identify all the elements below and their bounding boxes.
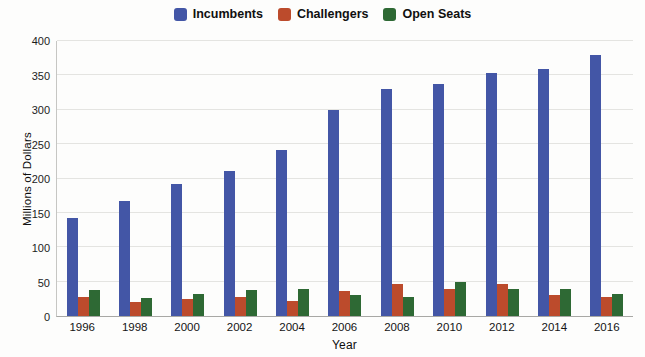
bar-open-seats-2008 <box>403 297 414 316</box>
x-tick-label: 1996 <box>56 321 108 333</box>
x-axis-labels: 1996199820002002200420062008201020122014… <box>56 321 633 333</box>
bar-group-2010 <box>424 41 476 316</box>
bar-group-2006 <box>319 41 371 316</box>
x-tick-label: 2000 <box>161 321 213 333</box>
legend-label-open-seats: Open Seats <box>402 7 471 21</box>
bar-challengers-2010 <box>444 289 455 317</box>
bar-group-2000 <box>162 41 214 316</box>
y-tick-label: 0 <box>0 310 50 324</box>
chart-root: Incumbents Challengers Open Seats Millio… <box>0 0 645 357</box>
x-tick-label: 2016 <box>581 321 633 333</box>
x-tick-label: 2014 <box>528 321 580 333</box>
bar-group-2002 <box>214 41 266 316</box>
open-seats-swatch-icon <box>383 8 396 21</box>
x-tick-label: 2008 <box>371 321 423 333</box>
x-tick-label: 2004 <box>266 321 318 333</box>
bar-challengers-1998 <box>130 302 141 316</box>
x-tick-label: 2010 <box>423 321 475 333</box>
bar-group-2008 <box>371 41 423 316</box>
bar-open-seats-1996 <box>89 290 100 316</box>
bar-challengers-2008 <box>392 284 403 316</box>
bar-incumbents-2016 <box>590 55 601 316</box>
legend-item-challengers: Challengers <box>278 7 369 21</box>
bar-challengers-2000 <box>182 299 193 316</box>
challengers-swatch-icon <box>278 8 291 21</box>
y-tick-label: 250 <box>0 138 50 152</box>
bar-challengers-2012 <box>497 284 508 316</box>
bar-open-seats-1998 <box>141 298 152 316</box>
legend-item-incumbents: Incumbents <box>174 7 263 21</box>
chart-legend: Incumbents Challengers Open Seats <box>0 7 645 21</box>
legend-label-incumbents: Incumbents <box>193 7 263 21</box>
bar-open-seats-2012 <box>508 289 519 316</box>
bar-incumbents-2000 <box>171 184 182 316</box>
bar-challengers-1996 <box>78 297 89 316</box>
bar-incumbents-2006 <box>328 110 339 316</box>
y-tick-label: 150 <box>0 207 50 221</box>
bar-incumbents-2014 <box>538 69 549 317</box>
bar-incumbents-2010 <box>433 84 444 316</box>
bar-group-2004 <box>266 41 318 316</box>
bar-incumbents-1996 <box>67 218 78 316</box>
plot-area <box>56 41 633 317</box>
y-tick-label: 50 <box>0 276 50 290</box>
y-tick-label: 400 <box>0 34 50 48</box>
x-tick-label: 2006 <box>318 321 370 333</box>
y-tick-label: 200 <box>0 172 50 186</box>
bar-incumbents-2008 <box>381 89 392 316</box>
bar-open-seats-2016 <box>612 294 623 316</box>
bar-open-seats-2004 <box>298 289 309 317</box>
bar-incumbents-2002 <box>224 171 235 316</box>
y-tick-label: 350 <box>0 69 50 83</box>
y-tick-label: 300 <box>0 103 50 117</box>
bar-open-seats-2006 <box>350 295 361 316</box>
bar-group-1996 <box>57 41 109 316</box>
bar-open-seats-2002 <box>246 290 257 316</box>
bar-challengers-2014 <box>549 295 560 316</box>
legend-item-open-seats: Open Seats <box>383 7 471 21</box>
bar-group-1998 <box>109 41 161 316</box>
bar-group-2016 <box>581 41 633 316</box>
x-axis-title: Year <box>56 338 633 352</box>
bar-open-seats-2010 <box>455 282 466 316</box>
y-tick-label: 100 <box>0 241 50 255</box>
bar-challengers-2002 <box>235 297 246 316</box>
bar-challengers-2004 <box>287 301 298 316</box>
bar-group-2014 <box>528 41 580 316</box>
bar-group-2012 <box>476 41 528 316</box>
bar-open-seats-2000 <box>193 294 204 316</box>
x-tick-label: 1998 <box>108 321 160 333</box>
legend-label-challengers: Challengers <box>297 7 369 21</box>
bar-challengers-2016 <box>601 297 612 316</box>
x-tick-label: 2002 <box>213 321 265 333</box>
bar-incumbents-2012 <box>486 73 497 316</box>
bar-incumbents-2004 <box>276 150 287 316</box>
incumbents-swatch-icon <box>174 8 187 21</box>
bar-incumbents-1998 <box>119 201 130 317</box>
bar-groups <box>57 41 633 316</box>
x-tick-label: 2012 <box>476 321 528 333</box>
bar-open-seats-2014 <box>560 289 571 317</box>
bar-challengers-2006 <box>339 291 350 316</box>
